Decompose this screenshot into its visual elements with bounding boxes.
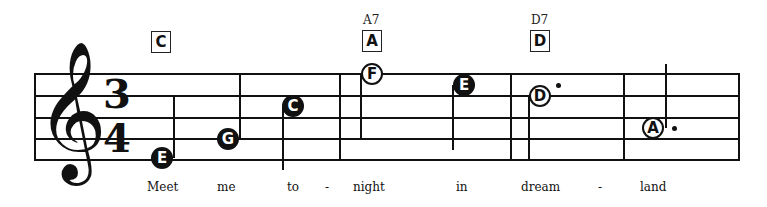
note-e: E [453, 74, 475, 96]
note-stem [173, 95, 175, 158]
staff-line [34, 95, 740, 97]
chord-box-a: A [362, 30, 382, 52]
time-signature-bottom: 4 [103, 118, 131, 158]
lyric-hyphen: - [598, 180, 602, 194]
lyric: land [640, 180, 666, 194]
chord-box-c: C [151, 31, 171, 53]
note-stem [360, 74, 362, 138]
note-c: C [282, 95, 304, 117]
lyric: in [456, 180, 468, 194]
note-d: D [529, 85, 551, 107]
lyric: night [353, 180, 385, 194]
lyric: dream [521, 180, 560, 194]
note-a: A [642, 117, 664, 139]
barline [339, 73, 341, 161]
note-stem [528, 96, 530, 160]
note-g: G [217, 128, 239, 150]
staff-line [34, 73, 740, 75]
note-stem [452, 85, 454, 150]
time-signature-top: 3 [103, 74, 131, 114]
note-stem [665, 64, 667, 128]
barline [623, 73, 625, 161]
treble-clef-icon: 𝄞 [36, 50, 107, 170]
staff-line [34, 117, 740, 119]
lyric: Meet [147, 180, 178, 194]
lyric-hyphen: - [325, 180, 329, 194]
note-stem [282, 106, 284, 170]
dot-icon [556, 83, 561, 88]
lyric: me [217, 180, 235, 194]
staff-line [34, 159, 740, 161]
note-stem [239, 73, 241, 139]
note-f: F [361, 63, 383, 85]
barline [510, 73, 512, 161]
chord-box-d: D [530, 30, 550, 52]
lyric: to [287, 180, 299, 194]
note-e: E [151, 147, 173, 169]
staff-line [34, 138, 740, 140]
chord-name-d7: D7 [531, 13, 548, 27]
dot-icon [672, 126, 677, 131]
chord-name-a7: A7 [363, 13, 379, 27]
barline-end [738, 73, 740, 161]
